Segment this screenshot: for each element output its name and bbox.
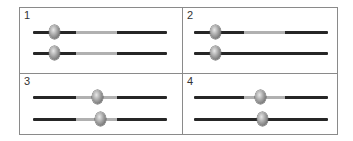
slider-track[interactable] [33,31,167,34]
slider-thumb[interactable] [210,25,221,39]
slider-thumb[interactable] [210,46,221,60]
panel-label: 4 [187,75,193,87]
highlight-segment [76,52,117,55]
slider-track[interactable] [33,52,167,55]
panel-label: 1 [24,9,30,21]
panel-label: 2 [187,9,193,21]
slider-track[interactable] [194,118,328,121]
slider-track[interactable] [33,118,167,121]
slider-track[interactable] [194,52,328,55]
slider-track[interactable] [33,96,167,99]
highlight-segment [244,31,285,34]
panel-1: 1 [20,8,182,72]
slider-comparison-grid: 1 2 3 4 [19,7,338,135]
panel-3: 3 [20,74,182,138]
panel-4: 4 [183,74,345,138]
panel-2: 2 [183,8,345,72]
slider-thumb[interactable] [49,25,60,39]
slider-thumb[interactable] [92,90,103,104]
slider-track[interactable] [194,96,328,99]
panel-label: 3 [24,75,30,87]
highlight-segment [76,31,117,34]
slider-thumb[interactable] [49,46,60,60]
slider-track[interactable] [194,31,328,34]
slider-thumb[interactable] [257,112,268,126]
slider-thumb[interactable] [95,112,106,126]
slider-thumb[interactable] [255,90,266,104]
